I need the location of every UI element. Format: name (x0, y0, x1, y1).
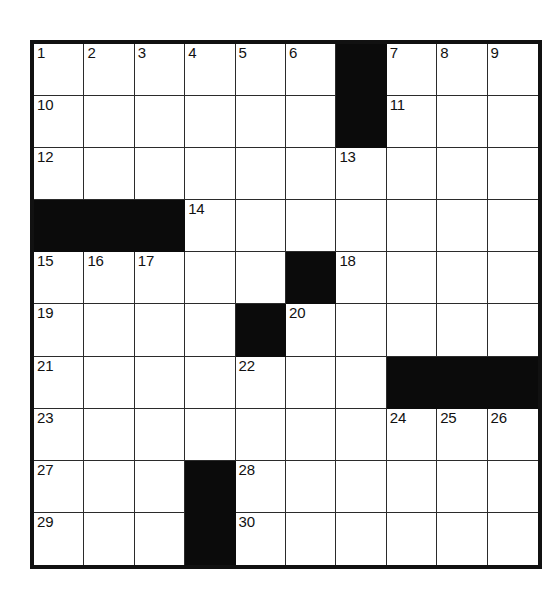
grid-cell[interactable] (387, 461, 437, 513)
grid-cell[interactable] (185, 357, 235, 409)
grid-cell[interactable] (488, 148, 538, 200)
grid-cell[interactable] (286, 200, 336, 252)
grid-cell[interactable] (236, 96, 286, 148)
grid-cell[interactable]: 27 (34, 461, 84, 513)
grid-cell[interactable]: 21 (34, 357, 84, 409)
grid-cell[interactable] (336, 304, 386, 356)
grid-cell[interactable]: 16 (84, 252, 134, 304)
grid-cell[interactable]: 12 (34, 148, 84, 200)
grid-cell[interactable] (286, 513, 336, 565)
grid-cell[interactable] (185, 148, 235, 200)
grid-cell[interactable] (437, 148, 487, 200)
grid-cell[interactable] (84, 461, 134, 513)
grid-block-cell (286, 252, 336, 304)
grid-cell[interactable] (387, 513, 437, 565)
grid-block-cell (336, 44, 386, 96)
grid-cell[interactable]: 28 (236, 461, 286, 513)
grid-cell[interactable] (185, 409, 235, 461)
grid-cell[interactable]: 1 (34, 44, 84, 96)
grid-cell[interactable] (84, 148, 134, 200)
grid-cell[interactable]: 23 (34, 409, 84, 461)
grid-cell[interactable]: 5 (236, 44, 286, 96)
grid-cell[interactable] (437, 252, 487, 304)
grid-cell[interactable] (437, 461, 487, 513)
grid-cell[interactable] (84, 513, 134, 565)
grid-cell[interactable]: 22 (236, 357, 286, 409)
grid-cell[interactable] (185, 96, 235, 148)
grid-cell[interactable] (387, 200, 437, 252)
grid-cell[interactable] (336, 200, 386, 252)
grid-cell[interactable] (236, 200, 286, 252)
grid-cell[interactable] (437, 96, 487, 148)
grid-cell[interactable]: 18 (336, 252, 386, 304)
grid-cell[interactable] (387, 304, 437, 356)
grid-cell[interactable]: 6 (286, 44, 336, 96)
grid-cell[interactable] (135, 304, 185, 356)
grid-cell[interactable] (84, 409, 134, 461)
grid-cell[interactable]: 25 (437, 409, 487, 461)
grid-cell[interactable] (135, 148, 185, 200)
grid-cell[interactable] (135, 96, 185, 148)
clue-number: 13 (339, 148, 355, 165)
clue-number: 4 (188, 44, 196, 61)
grid-cell[interactable] (488, 252, 538, 304)
grid-cell[interactable] (135, 409, 185, 461)
clue-number: 23 (37, 409, 53, 426)
grid-cell[interactable] (236, 409, 286, 461)
grid-cell[interactable]: 4 (185, 44, 235, 96)
grid-cell[interactable] (488, 96, 538, 148)
grid-cell[interactable] (387, 252, 437, 304)
grid-cell[interactable] (135, 513, 185, 565)
grid-cell[interactable] (437, 513, 487, 565)
grid-cell[interactable] (437, 304, 487, 356)
grid-cell[interactable] (185, 304, 235, 356)
grid-cell[interactable] (336, 461, 386, 513)
grid-cell[interactable]: 10 (34, 96, 84, 148)
grid-cell[interactable]: 17 (135, 252, 185, 304)
grid-cell[interactable] (84, 357, 134, 409)
clue-number: 25 (440, 409, 456, 426)
grid-cell[interactable]: 20 (286, 304, 336, 356)
grid-cell[interactable]: 29 (34, 513, 84, 565)
grid-cell[interactable] (286, 96, 336, 148)
grid-cell[interactable] (185, 252, 235, 304)
grid-cell[interactable]: 11 (387, 96, 437, 148)
grid-cell[interactable]: 3 (135, 44, 185, 96)
grid-cell[interactable]: 15 (34, 252, 84, 304)
grid-cell[interactable] (135, 461, 185, 513)
grid-cell[interactable] (437, 200, 487, 252)
grid-cell[interactable] (336, 357, 386, 409)
grid-cell[interactable]: 13 (336, 148, 386, 200)
clue-number: 16 (87, 252, 103, 269)
grid-cell[interactable]: 24 (387, 409, 437, 461)
clue-number: 17 (138, 252, 154, 269)
grid-cell[interactable] (286, 357, 336, 409)
grid-cell[interactable]: 14 (185, 200, 235, 252)
grid-cell[interactable] (84, 304, 134, 356)
grid-cell[interactable]: 8 (437, 44, 487, 96)
clue-number: 24 (390, 409, 406, 426)
grid-cell[interactable]: 7 (387, 44, 437, 96)
grid-cell[interactable] (336, 513, 386, 565)
grid-cell[interactable] (236, 252, 286, 304)
grid-cell[interactable] (236, 148, 286, 200)
grid-cell[interactable] (488, 200, 538, 252)
grid-cell[interactable]: 30 (236, 513, 286, 565)
clue-number: 9 (491, 44, 499, 61)
grid-cell[interactable] (387, 148, 437, 200)
grid-cell[interactable]: 2 (84, 44, 134, 96)
grid-cell[interactable]: 9 (488, 44, 538, 96)
grid-cell[interactable] (84, 96, 134, 148)
grid-cell[interactable] (286, 461, 336, 513)
grid-cell[interactable] (488, 461, 538, 513)
grid-cell[interactable] (488, 513, 538, 565)
grid-cell[interactable] (336, 409, 386, 461)
grid-cell[interactable] (488, 304, 538, 356)
grid-cell[interactable] (286, 409, 336, 461)
clue-number: 20 (289, 304, 305, 321)
grid-cell[interactable]: 26 (488, 409, 538, 461)
grid-cell[interactable] (286, 148, 336, 200)
crossword-grid[interactable]: 1234567891011121314151617181920212223242… (30, 40, 542, 569)
grid-cell[interactable]: 19 (34, 304, 84, 356)
grid-cell[interactable] (135, 357, 185, 409)
